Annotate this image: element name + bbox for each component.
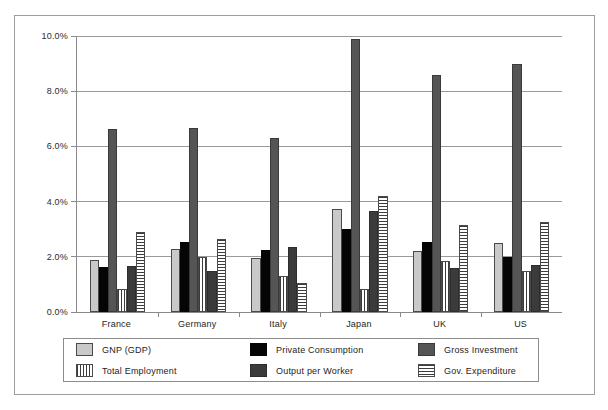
bar-italy-output-per-worker bbox=[288, 247, 297, 312]
bar-france-total-employment bbox=[117, 289, 126, 312]
y-axis-tick bbox=[71, 201, 76, 202]
bar-germany-private-consumption bbox=[180, 242, 189, 312]
bar-group bbox=[90, 36, 145, 312]
bar-germany-output-per-worker bbox=[207, 271, 216, 312]
bar-france-gov-expenditure bbox=[136, 232, 145, 312]
x-axis-tick bbox=[239, 312, 240, 317]
chart-legend: GNP (GDP) Total Employment Private Consu… bbox=[63, 338, 539, 382]
bar-japan-output-per-worker bbox=[369, 211, 378, 312]
bar-italy-total-employment bbox=[279, 276, 288, 312]
legend-item-gross-investment: Gross Investment bbox=[418, 343, 518, 357]
legend-swatch-output-per-worker-icon bbox=[250, 364, 267, 377]
y-axis-tick bbox=[71, 312, 76, 313]
chart-frame: 0.0%2.0%4.0%6.0%8.0%10.0% FranceGermanyI… bbox=[14, 15, 595, 395]
x-axis-label-italy: Italy bbox=[269, 319, 287, 329]
bar-group bbox=[251, 36, 306, 312]
legend-item-private-consumption: Private Consumption bbox=[250, 343, 418, 357]
legend-item-gnp-gdp: GNP (GDP) bbox=[76, 343, 250, 357]
y-axis-tick-label: 4.0% bbox=[47, 197, 68, 206]
legend-swatch-private-consumption-icon bbox=[250, 343, 267, 356]
bar-germany-gov-expenditure bbox=[217, 239, 226, 312]
bar-germany-total-employment bbox=[198, 257, 207, 312]
x-axis-tick bbox=[481, 312, 482, 317]
y-gridline bbox=[77, 256, 562, 257]
bar-france-output-per-worker bbox=[127, 266, 136, 312]
bar-group bbox=[171, 36, 226, 312]
y-axis-tick-label: 10.0% bbox=[41, 32, 68, 41]
bar-france-gnp-gdp bbox=[90, 260, 99, 312]
bar-us-gross-investment bbox=[512, 64, 521, 312]
bar-us-gov-expenditure bbox=[540, 222, 549, 312]
legend-item-total-employment: Total Employment bbox=[76, 364, 250, 378]
y-axis-tick-label: 6.0% bbox=[47, 142, 68, 151]
bar-us-output-per-worker bbox=[531, 265, 540, 312]
bar-japan-gnp-gdp bbox=[332, 209, 341, 313]
bar-italy-gnp-gdp bbox=[251, 258, 260, 312]
y-gridline bbox=[77, 36, 562, 37]
legend-column-3: Gross Investment Gov. Expenditure bbox=[418, 343, 518, 378]
bar-germany-gnp-gdp bbox=[171, 249, 180, 312]
bar-uk-private-consumption bbox=[422, 242, 431, 312]
legend-swatch-gross-investment-icon bbox=[418, 343, 435, 356]
bar-us-total-employment bbox=[522, 271, 531, 312]
legend-item-gov-expenditure: Gov. Expenditure bbox=[418, 364, 518, 378]
legend-label-total-employment: Total Employment bbox=[102, 366, 177, 376]
x-axis-tick bbox=[158, 312, 159, 317]
bar-uk-gross-investment bbox=[432, 75, 441, 312]
legend-label-gross-investment: Gross Investment bbox=[444, 345, 518, 355]
x-axis-label-us: US bbox=[514, 319, 527, 329]
legend-label-output-per-worker: Output per Worker bbox=[276, 366, 353, 376]
bar-japan-private-consumption bbox=[342, 229, 351, 312]
bar-group bbox=[413, 36, 468, 312]
legend-item-output-per-worker: Output per Worker bbox=[250, 364, 418, 378]
y-axis-tick-label: 0.0% bbox=[47, 308, 68, 317]
legend-swatch-gnp-gdp-icon bbox=[76, 343, 93, 356]
bar-japan-gross-investment bbox=[351, 39, 360, 312]
y-axis-tick bbox=[71, 146, 76, 147]
bar-japan-gov-expenditure bbox=[378, 196, 387, 312]
x-axis-label-uk: UK bbox=[433, 319, 446, 329]
y-gridline bbox=[77, 201, 562, 202]
bar-japan-total-employment bbox=[360, 289, 369, 312]
y-axis-tick bbox=[71, 91, 76, 92]
legend-label-gov-expenditure: Gov. Expenditure bbox=[444, 366, 516, 376]
legend-column-2: Private Consumption Output per Worker bbox=[250, 343, 418, 378]
legend-label-gnp-gdp: GNP (GDP) bbox=[102, 345, 151, 355]
legend-label-private-consumption: Private Consumption bbox=[276, 345, 363, 355]
bar-group bbox=[494, 36, 549, 312]
bar-group bbox=[332, 36, 387, 312]
bar-uk-gnp-gdp bbox=[413, 251, 422, 312]
bar-uk-output-per-worker bbox=[450, 268, 459, 312]
y-axis-tick-label: 8.0% bbox=[47, 87, 68, 96]
y-gridline bbox=[77, 146, 562, 147]
x-axis-label-japan: Japan bbox=[346, 319, 372, 329]
bar-italy-private-consumption bbox=[261, 250, 270, 312]
plot-area-wrapper: 0.0%2.0%4.0%6.0%8.0%10.0% FranceGermanyI… bbox=[15, 16, 596, 326]
bar-france-gross-investment bbox=[108, 129, 117, 312]
bar-italy-gross-investment bbox=[270, 138, 279, 312]
x-axis-tick bbox=[320, 312, 321, 317]
y-axis-tick-label: 2.0% bbox=[47, 252, 68, 261]
bar-france-private-consumption bbox=[99, 267, 108, 312]
x-axis-label-france: France bbox=[102, 319, 131, 329]
legend-swatch-total-employment-icon bbox=[76, 364, 93, 377]
x-axis-tick bbox=[400, 312, 401, 317]
bar-us-gnp-gdp bbox=[494, 243, 503, 312]
plot-area: 0.0%2.0%4.0%6.0%8.0%10.0% bbox=[76, 36, 562, 313]
y-axis-tick bbox=[71, 36, 76, 37]
bar-us-private-consumption bbox=[503, 257, 512, 312]
y-axis-tick bbox=[71, 256, 76, 257]
bar-italy-gov-expenditure bbox=[297, 283, 306, 312]
legend-column-1: GNP (GDP) Total Employment bbox=[76, 343, 250, 378]
bar-uk-gov-expenditure bbox=[459, 225, 468, 312]
x-axis-label-germany: Germany bbox=[178, 319, 216, 329]
legend-swatch-gov-expenditure-icon bbox=[418, 364, 435, 377]
bar-uk-total-employment bbox=[441, 261, 450, 312]
bar-germany-gross-investment bbox=[189, 128, 198, 312]
y-gridline bbox=[77, 91, 562, 92]
